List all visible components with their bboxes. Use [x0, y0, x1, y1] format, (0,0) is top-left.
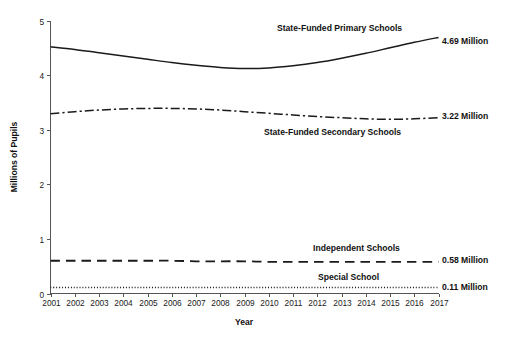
x-axis-ticks: 2001200220032004200520062007200820092010…: [42, 294, 449, 309]
value-label-primary: 4.69 Million: [442, 36, 488, 46]
x-axis-title: Year: [235, 317, 254, 327]
y-tick-label: 2: [39, 180, 44, 190]
x-tick-label: 2002: [66, 298, 85, 308]
x-tick-label: 2009: [236, 298, 255, 308]
x-tick-label: 2006: [163, 298, 182, 308]
x-tick-label: 2012: [308, 298, 327, 308]
value-label-secondary: 3.22 Million: [442, 111, 488, 121]
x-tick-label: 2004: [114, 298, 133, 308]
x-tick-label: 2007: [187, 298, 206, 308]
x-tick-label: 2014: [357, 298, 376, 308]
y-axis-ticks: 543210: [39, 17, 50, 300]
y-tick-label: 5: [39, 17, 44, 27]
value-label-independent: 0.58 Million: [442, 255, 488, 265]
x-tick-label: 2013: [333, 298, 352, 308]
series-label-independent: Independent Schools: [313, 243, 400, 253]
series-label-primary: State-Funded Primary Schools: [277, 23, 402, 33]
series-label-special: Special School: [318, 272, 379, 282]
y-tick-label: 3: [39, 126, 44, 136]
x-tick-label: 2015: [381, 298, 400, 308]
x-tick-label: 2011: [285, 298, 303, 308]
series-label-secondary: State-Funded Secondary Schools: [264, 127, 401, 137]
value-label-special: 0.11 Million: [442, 282, 488, 292]
y-tick-label: 1: [39, 235, 44, 245]
y-tick-label: 4: [39, 71, 44, 81]
x-tick-label: 2008: [211, 298, 230, 308]
x-tick-label: 2005: [139, 298, 158, 308]
series-line-dash-dot: [51, 108, 439, 119]
x-tick-label: 2003: [90, 298, 109, 308]
series-line-long-dash: [51, 261, 439, 262]
chart-canvas: 543210 200120022003200420052006200720082…: [0, 0, 510, 340]
y-axis-title: Millions of Pupils: [9, 121, 19, 192]
x-tick-label: 2001: [42, 298, 61, 308]
x-tick-label: 2016: [405, 298, 424, 308]
x-tick-label: 2010: [260, 298, 279, 308]
x-tick-label: 2017: [430, 298, 449, 308]
line-chart-figure: 543210 200120022003200420052006200720082…: [0, 0, 510, 340]
series-line-solid: [51, 37, 439, 68]
